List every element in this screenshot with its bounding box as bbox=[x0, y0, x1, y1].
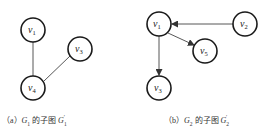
node-v3: v3 bbox=[68, 37, 92, 61]
node-v1: v1 bbox=[147, 12, 171, 36]
edge-v1-v5 bbox=[168, 33, 194, 45]
node-v4: v4 bbox=[21, 76, 45, 100]
node-v2: v2 bbox=[233, 12, 257, 36]
node-v1: v1 bbox=[21, 18, 45, 42]
subgraph-g1: v1 v3 v4 bbox=[21, 18, 92, 100]
caption-a: （a）G1 的子图 G1′ bbox=[2, 114, 65, 127]
caption-b: （b）G2 的子图 G2′ bbox=[164, 114, 227, 127]
node-v3: v3 bbox=[147, 76, 171, 100]
subgraph-g2: v1 v2 v5 v3 bbox=[147, 12, 257, 100]
node-v5: v5 bbox=[193, 39, 217, 63]
edge-v3-v4 bbox=[44, 56, 70, 81]
